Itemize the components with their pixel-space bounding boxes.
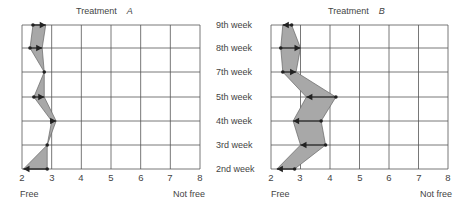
week-label-8: 8th week <box>216 43 252 53</box>
panel-b-title-text: Treatment <box>328 6 369 16</box>
tick-a-8: 8 <box>197 172 202 183</box>
tick-a-3: 3 <box>49 172 54 183</box>
week-label-2: 2nd week <box>216 164 255 174</box>
tick-b-8: 8 <box>445 172 450 183</box>
panel-a-letter: A <box>127 6 133 16</box>
axis-a-notfree-label: Not free <box>173 189 205 199</box>
start-dot <box>45 143 49 147</box>
tick-b-7: 7 <box>416 172 421 183</box>
panel-b-letter: B <box>379 6 385 16</box>
tick-b-4: 4 <box>327 172 332 183</box>
axis-a-free-label: Free <box>20 189 39 199</box>
tick-a-6: 6 <box>138 172 143 183</box>
week-label-9: 9th week <box>216 20 252 30</box>
chart-canvas <box>0 0 470 209</box>
axis-b-free-label: Free <box>271 189 290 199</box>
panel-a-title: TreatmentA <box>76 6 133 16</box>
tick-b-5: 5 <box>357 172 362 183</box>
tick-a-7: 7 <box>167 172 172 183</box>
tick-a-2: 2 <box>19 172 24 183</box>
week-label-4: 4th week <box>216 116 252 126</box>
tick-b-6: 6 <box>386 172 391 183</box>
panel-b-title: TreatmentB <box>328 6 385 16</box>
tick-b-2: 2 <box>268 172 273 183</box>
start-dot <box>42 70 46 74</box>
week-label-5: 5th week <box>216 92 252 102</box>
tick-a-5: 5 <box>108 172 113 183</box>
week-label-7: 7th week <box>216 67 252 77</box>
tick-b-3: 3 <box>297 172 302 183</box>
tick-a-4: 4 <box>78 172 83 183</box>
axis-b-notfree-label: Not free <box>420 189 452 199</box>
panel-a-title-text: Treatment <box>76 6 117 16</box>
week-label-3: 3rd week <box>216 140 253 150</box>
